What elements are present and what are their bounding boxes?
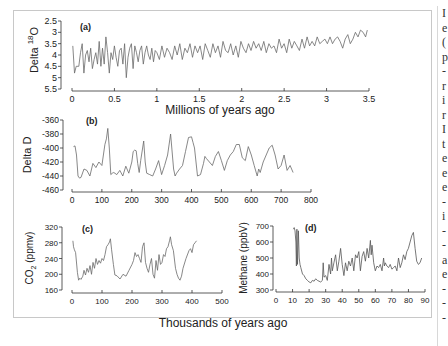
xtick-label: 600 bbox=[244, 195, 258, 205]
ytick-label: 3.5 bbox=[44, 39, 57, 49]
ytick-label: 4.5 bbox=[44, 61, 57, 71]
panel-a-label: (a) bbox=[80, 22, 91, 32]
panel-c-label: (c) bbox=[82, 224, 93, 234]
text-fragment: a bbox=[438, 253, 448, 268]
text-fragment: I bbox=[438, 122, 448, 137]
panel-d-methane-series bbox=[293, 228, 421, 283]
ytick-label: -460 bbox=[42, 185, 59, 195]
text-fragment: p bbox=[438, 50, 448, 65]
xtick-label: 100 bbox=[95, 195, 109, 205]
panel-b-label: (b) bbox=[86, 116, 98, 126]
panel-d: 3004005006007000102030405060708090 (d) M… bbox=[238, 222, 430, 305]
text-fragment: r bbox=[438, 79, 448, 94]
ytick-label: 5.5 bbox=[44, 84, 57, 94]
ytick-label: 320 bbox=[45, 223, 59, 232]
text-fragment: ( bbox=[438, 35, 448, 50]
xtick-label: 3.5 bbox=[363, 94, 376, 104]
ytick-label: 600 bbox=[256, 238, 270, 247]
xtick-label: 100 bbox=[95, 297, 109, 306]
panel-d-axes: 3004005006007000102030405060708090 bbox=[256, 222, 430, 305]
ytick-label: -380 bbox=[42, 129, 59, 139]
ytick-label: 160 bbox=[45, 286, 59, 295]
text-fragment: - bbox=[438, 224, 448, 239]
ytick-label: 200 bbox=[45, 270, 59, 279]
xtick-label: 70 bbox=[387, 296, 396, 305]
ytick-label: 5 bbox=[52, 73, 57, 83]
panel-c: 1602002402803200100200300400500 (c) CO2 … bbox=[24, 223, 229, 306]
ytick-label: 2.5 bbox=[44, 16, 57, 26]
text-fragment: I bbox=[438, 6, 448, 21]
xtick-label: 0 bbox=[70, 297, 75, 306]
ytick-label: 3 bbox=[52, 27, 57, 37]
text-fragment: e bbox=[438, 21, 448, 36]
bottom-shared-xlabel: Thousands of years ago bbox=[159, 316, 288, 330]
panel-d-ylabel: Methane (ppbV) bbox=[238, 222, 249, 294]
panel-b-deltad-series bbox=[74, 128, 294, 178]
xtick-label: 30 bbox=[321, 296, 330, 305]
panel-b-axes: -360-380-400-420-440-4600100200300400500… bbox=[42, 115, 318, 205]
panel-c-axes: 1602002402803200100200300400500 bbox=[45, 223, 230, 306]
xtick-label: 300 bbox=[155, 195, 169, 205]
xtick-label: 200 bbox=[125, 195, 139, 205]
xtick-label: 500 bbox=[215, 297, 229, 306]
xtick-label: 40 bbox=[338, 296, 347, 305]
ytick-label: -440 bbox=[42, 171, 59, 181]
ytick-label: 280 bbox=[45, 239, 59, 248]
ytick-label: 400 bbox=[256, 270, 270, 279]
text-fragment: e bbox=[438, 180, 448, 195]
panel-d-label: (d) bbox=[305, 223, 317, 233]
text-fragment: - bbox=[438, 238, 448, 253]
xtick-label: 800 bbox=[304, 195, 318, 205]
xtick-label: 80 bbox=[404, 296, 413, 305]
xtick-label: 90 bbox=[421, 296, 430, 305]
panel-b: -360-380-400-420-440-4600100200300400500… bbox=[21, 115, 318, 205]
ytick-label: 300 bbox=[256, 286, 270, 295]
panel-a: 2.533.544.555.500.511.522.533.5 (a) Delt… bbox=[26, 16, 375, 117]
text-fragment: e bbox=[438, 166, 448, 181]
xtick-label: 20 bbox=[305, 296, 314, 305]
panel-a-delta18o-series bbox=[73, 30, 368, 78]
text-fragment: r bbox=[438, 108, 448, 123]
ytick-label: 700 bbox=[256, 222, 270, 231]
text-fragment: - bbox=[438, 195, 448, 210]
xtick-label: 200 bbox=[125, 297, 139, 306]
text-fragment: e bbox=[438, 267, 448, 282]
xtick-label: 400 bbox=[184, 195, 198, 205]
text-fragment: e bbox=[438, 151, 448, 166]
text-fragment: - bbox=[438, 311, 448, 326]
xtick-label: 50 bbox=[354, 296, 363, 305]
xtick-label: 0 bbox=[69, 94, 74, 104]
panel-a-ylabel: Delta 18O bbox=[26, 26, 40, 73]
text-fragment: - bbox=[438, 282, 448, 297]
xtick-label: 0 bbox=[70, 195, 75, 205]
xtick-label: 300 bbox=[155, 297, 169, 306]
xtick-label: 0 bbox=[274, 296, 279, 305]
ytick-label: 500 bbox=[256, 254, 270, 263]
xtick-label: 500 bbox=[214, 195, 228, 205]
ytick-label: 240 bbox=[45, 255, 59, 264]
xtick-label: 60 bbox=[371, 296, 380, 305]
adjacent-text-column-fragment: Ie(p-rirIteee-i--ae--- bbox=[437, 6, 448, 346]
xtick-label: 700 bbox=[274, 195, 288, 205]
panel-a-xlabel: Millions of years ago bbox=[165, 103, 275, 117]
xtick-label: 3 bbox=[324, 94, 329, 104]
panel-c-ylabel: CO2 (ppmv) bbox=[24, 232, 37, 285]
ytick-label: -400 bbox=[42, 143, 59, 153]
panel-c-co2-series bbox=[73, 237, 197, 280]
ytick-label: -420 bbox=[42, 157, 59, 167]
text-fragment: t bbox=[438, 137, 448, 152]
xtick-label: 400 bbox=[185, 297, 199, 306]
ytick-label: 4 bbox=[52, 50, 57, 60]
xtick-label: 1 bbox=[154, 94, 159, 104]
ytick-label: -360 bbox=[42, 115, 59, 125]
panel-b-ylabel: Delta D bbox=[21, 137, 33, 174]
text-fragment: - bbox=[438, 296, 448, 311]
text-fragment: i bbox=[438, 209, 448, 224]
xtick-label: 10 bbox=[288, 296, 297, 305]
text-fragment: - bbox=[438, 64, 448, 79]
xtick-label: 2.5 bbox=[278, 94, 291, 104]
text-fragment: i bbox=[438, 93, 448, 108]
xtick-label: 0.5 bbox=[108, 94, 121, 104]
